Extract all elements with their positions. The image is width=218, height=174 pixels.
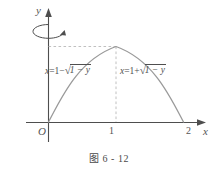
caption-chapter: 6 — [103, 153, 109, 164]
equation-right-radical: √1 − y — [140, 64, 166, 76]
equation-left-radicand: 1 − y — [70, 64, 91, 75]
x-tick-label-2: 2 — [186, 126, 191, 136]
caption-word: 图 — [89, 153, 100, 164]
x-tick-label-1: 1 — [109, 126, 114, 136]
caption-dash: - — [111, 153, 115, 164]
figure-caption: 图 6 - 12 — [0, 150, 218, 165]
caption-number: 12 — [118, 153, 129, 164]
x-axis — [26, 119, 206, 126]
x-axis-label: x — [203, 126, 208, 137]
y-axis-arrowhead — [45, 8, 52, 17]
rotation-indicator — [33, 25, 66, 39]
figure-container: y x O 1 2 x=1−√1 − y x=1+√1 − y 图 6 - 12 — [0, 0, 218, 174]
equation-right-branch: x=1+√1 − y — [120, 64, 166, 76]
rotation-arrowhead — [60, 30, 66, 35]
equation-right-radicand: 1 − y — [145, 64, 166, 75]
equation-left-radical: √1 − y — [65, 64, 91, 76]
equation-left-branch: x=1−√1 − y — [45, 64, 91, 76]
y-axis-label: y — [36, 5, 41, 16]
origin-label: O — [38, 126, 46, 137]
guide-lines — [49, 47, 117, 123]
plot-canvas — [0, 0, 218, 174]
